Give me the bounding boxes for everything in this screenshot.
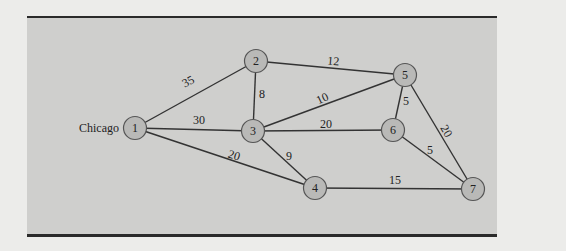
node-label: 1 [132,121,138,135]
node-label: 5 [402,68,408,82]
node-2: 2 [245,50,268,73]
node-label: 3 [250,124,256,138]
edge-4-7 [315,188,473,189]
edge-weight-label: 20 [226,147,242,164]
node-label: 2 [253,54,259,68]
edge-1-3 [135,128,253,131]
edge-weight-label: 10 [314,89,331,107]
edge-weight-label: 5 [427,143,433,157]
edge-weight-label: 8 [259,87,265,101]
node-label: 6 [390,123,396,137]
edge-weight-label: 30 [193,113,205,127]
edge-6-7 [393,130,473,189]
edge-weight-label: 15 [389,173,401,187]
network-diagram: 35302081210209520515 1234567 Chicago [0,0,566,251]
edge-weight-label: 20 [320,117,332,131]
node-5: 5 [394,64,417,87]
edge-3-4 [253,131,315,188]
node-3: 3 [242,120,265,143]
edge-weight-label: 12 [327,54,340,69]
node-4: 4 [304,177,327,200]
edge-weight-label: 5 [403,94,409,108]
node-6: 6 [382,119,405,142]
node-7: 7 [462,178,485,201]
edge-weight-label: 35 [180,72,197,90]
node-label: 7 [470,182,476,196]
edge-weight-label: 9 [286,149,292,163]
node-1: 1 [124,117,147,140]
edge-weight-label: 20 [437,122,455,139]
node-label: 4 [312,181,318,195]
source-label: Chicago [79,121,119,135]
